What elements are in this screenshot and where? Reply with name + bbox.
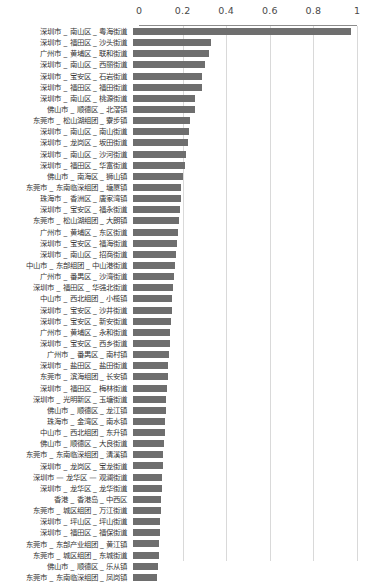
bar	[133, 295, 172, 302]
bar-track	[133, 305, 351, 316]
bar-category-label: 珠海市 _ 香洲区 _ 唐家湾镇	[0, 194, 133, 203]
bar-track	[133, 427, 351, 438]
bar-row: 中山市 _ 西北组团 _ 东升镇	[0, 427, 367, 438]
bar	[133, 284, 173, 291]
bar-category-label: 广州市 _ 黄埔区 _ 东区街道	[0, 228, 133, 237]
bar	[133, 151, 186, 158]
bar	[133, 462, 163, 469]
bar-category-label: 东莞市 _ 东部产业组团 _ 黄江镇	[0, 540, 133, 549]
bar-row: 广州市 _ 黄埔区 _ 永和街道	[0, 327, 367, 338]
bar-category-label: 深圳市 _ 福田区 _ 福保街道	[0, 528, 133, 537]
bar	[133, 128, 189, 135]
bar-category-label: 深圳市 _ 宝安区 _ 西乡街道	[0, 339, 133, 348]
bar-track	[133, 460, 351, 471]
bar	[133, 563, 158, 570]
bar-row: 深圳市 _ 宝安区 _ 新安街道	[0, 316, 367, 327]
bar-row: 深圳市 _ 福田区 _ 福保街道	[0, 527, 367, 538]
bar	[133, 407, 166, 414]
bar-track	[133, 126, 351, 137]
bar	[133, 440, 164, 447]
x-tick-label: 0.4	[218, 5, 234, 16]
bar	[133, 385, 167, 392]
bar-track	[133, 115, 351, 126]
bar-track	[133, 93, 351, 104]
bar-track	[133, 26, 351, 37]
bar-track	[133, 71, 351, 82]
bar	[133, 540, 159, 547]
bar-track	[133, 204, 351, 215]
x-tick-label: 0	[136, 5, 142, 16]
bar-category-label: 佛山市 _ 南海区 _ 狮山镇	[0, 172, 133, 181]
bar-category-label: 深圳市 _ 南山区 _ 桃源街道	[0, 94, 133, 103]
bar-row: 深圳市 _ 宝安区 _ 西乡街道	[0, 338, 367, 349]
bar	[133, 139, 188, 146]
x-tick-label: 1	[354, 5, 360, 16]
bar	[133, 195, 181, 202]
bar-category-label: 中山市 _ 东部组团 _ 中山港街道	[0, 261, 133, 270]
bar-track	[133, 149, 351, 160]
bar-track	[133, 37, 351, 48]
bar	[133, 117, 190, 124]
bar-category-label: 广州市 _ 番禺区 _ 南村镇	[0, 350, 133, 359]
bar-track	[133, 238, 351, 249]
bar	[133, 351, 169, 358]
bar-track	[133, 561, 351, 572]
bar-category-label: 中山市 _ 西北组团 _ 小榄镇	[0, 294, 133, 303]
bar-row: 深圳市 _ 南山区 _ 沙河街道	[0, 149, 367, 160]
bar-track	[133, 82, 351, 93]
bar-category-label: 深圳市 _ 宝安区 _ 福海街道	[0, 239, 133, 248]
bar-category-label: 东莞市 _ 东南临深组团 _ 清溪镇	[0, 450, 133, 459]
bar-row: 珠海市 _ 金湾区 _ 南水镇	[0, 416, 367, 427]
bar	[133, 28, 351, 35]
bar-track	[133, 249, 351, 260]
bar-category-label: 深圳市 _ 宝安区 _ 新安街道	[0, 317, 133, 326]
bar	[133, 362, 168, 369]
bar-row: 深圳市 _ 盐田区 _ 盐田街道	[0, 360, 367, 371]
bar-track	[133, 327, 351, 338]
bar-row: 深圳市 _ 龙岗区 _ 宝龙街道	[0, 460, 367, 471]
bar-category-label: 深圳市 _ 龙华区 _ 龙华街道	[0, 484, 133, 493]
bar-category-label: 深圳市 _ 龙岗区 _ 坂田街道	[0, 138, 133, 147]
bar-track	[133, 338, 351, 349]
bar-row: 东莞市 _ 松山湖组团 _ 寮步镇	[0, 115, 367, 126]
bar-row: 深圳市 _ 光明新区 _ 玉塘街道	[0, 394, 367, 405]
bar-category-label: 深圳市 _ 福田区 _ 沙头街道	[0, 38, 133, 47]
bar-row: 深圳市 _ 宝安区 _ 福永街道	[0, 204, 367, 215]
bar	[133, 184, 181, 191]
bar-track	[133, 416, 351, 427]
bar	[133, 229, 178, 236]
bar-category-label: 深圳市 _ 光明新区 _ 玉塘街道	[0, 395, 133, 404]
bar-category-label: 佛山市 _ 顺德区 _ 乐从镇	[0, 562, 133, 571]
bar	[133, 39, 211, 46]
bar-row: 深圳市 _ 南山区 _ 粤海街道	[0, 26, 367, 37]
bar	[133, 173, 183, 180]
x-tick-label: 0.6	[262, 5, 278, 16]
bar	[133, 307, 172, 314]
bar	[133, 329, 170, 336]
bar-track	[133, 316, 351, 327]
bar-track	[133, 360, 351, 371]
bar-category-label: 佛山市 _ 顺德区 _ 龙江镇	[0, 406, 133, 415]
bar-category-label: 深圳市 _ 坪山区 _ 坪山街道	[0, 517, 133, 526]
bar	[133, 318, 171, 325]
bar-track	[133, 349, 351, 360]
bar	[133, 373, 168, 380]
bar-track	[133, 371, 351, 382]
bar-row: 深圳市 _ 宝安区 _ 石岩街道	[0, 71, 367, 82]
bar-row: 深圳市 _ 福田区 _ 福田街道	[0, 82, 367, 93]
bar-category-label: 深圳市 _ 龙岗区 _ 宝龙街道	[0, 462, 133, 471]
bar	[133, 240, 177, 247]
bar-track	[133, 438, 351, 449]
bar-category-label: 东莞市 _ 城区组团 _ 万江街道	[0, 506, 133, 515]
bar-row: 深圳市 _ 南山区 _ 南山街道	[0, 126, 367, 137]
bar-category-label: 深圳市 _ 南山区 _ 招商街道	[0, 250, 133, 259]
bar-category-label: 中山市 _ 西北组团 _ 东升镇	[0, 428, 133, 437]
bar-track	[133, 48, 351, 59]
bar-category-label: 佛山市 _ 顺德区 _ 北滘镇	[0, 105, 133, 114]
bar-category-label: 深圳市 _ 宝安区 _ 沙井街道	[0, 306, 133, 315]
bar-category-label: 深圳市 _ 福田区 _ 福田街道	[0, 83, 133, 92]
bar-row: 东莞市 _ 城区组团 _ 万江街道	[0, 505, 367, 516]
bar-track	[133, 483, 351, 494]
bar-track	[133, 282, 351, 293]
bar	[133, 496, 161, 503]
